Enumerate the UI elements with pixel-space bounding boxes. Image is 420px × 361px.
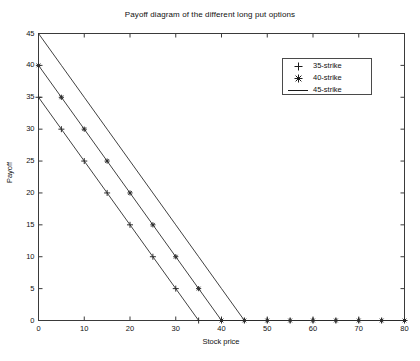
data-marker bbox=[36, 63, 41, 68]
x-tick-label: 50 bbox=[247, 324, 287, 333]
x-tick-label: 70 bbox=[339, 324, 379, 333]
legend-label: 45-strike bbox=[313, 84, 342, 96]
y-tick-label: 40 bbox=[5, 60, 35, 69]
y-tick-label: 0 bbox=[5, 316, 35, 325]
y-tick-label: 5 bbox=[5, 284, 35, 293]
data-marker bbox=[81, 158, 87, 164]
y-tick-label: 45 bbox=[5, 29, 35, 38]
data-marker bbox=[150, 222, 155, 227]
legend-label: 35-strike bbox=[313, 60, 342, 72]
data-marker bbox=[219, 318, 224, 323]
x-tick-label: 10 bbox=[64, 324, 104, 333]
x-tick-label: 40 bbox=[202, 324, 242, 333]
y-tick-label: 35 bbox=[5, 92, 35, 101]
data-marker bbox=[36, 94, 42, 100]
y-tick-label: 20 bbox=[5, 188, 35, 197]
series-line-40 bbox=[39, 65, 405, 320]
legend-label: 40-strike bbox=[313, 72, 342, 84]
y-tick-label: 30 bbox=[5, 124, 35, 133]
asterisk-marker-icon bbox=[283, 73, 313, 84]
series-line-35 bbox=[39, 97, 405, 320]
y-tick-label: 25 bbox=[5, 156, 35, 165]
legend-item-40-strike: 40-strike bbox=[283, 72, 373, 84]
y-tick-label: 10 bbox=[5, 252, 35, 261]
data-marker bbox=[173, 254, 178, 259]
data-marker bbox=[127, 190, 132, 195]
x-tick-label: 20 bbox=[110, 324, 150, 333]
data-marker bbox=[58, 126, 64, 132]
legend-item-35-strike: 35-strike bbox=[283, 60, 373, 72]
data-marker bbox=[150, 254, 156, 260]
plot-area bbox=[0, 0, 420, 361]
data-marker bbox=[82, 127, 87, 132]
data-marker bbox=[127, 222, 133, 228]
x-tick-label: 80 bbox=[385, 324, 420, 333]
legend: 35-strike 40-strike 45-strike bbox=[282, 58, 372, 95]
data-marker bbox=[196, 286, 201, 291]
y-tick-label: 15 bbox=[5, 220, 35, 229]
plus-marker-icon bbox=[283, 61, 313, 72]
x-tick-label: 30 bbox=[156, 324, 196, 333]
data-marker bbox=[59, 95, 64, 100]
data-marker bbox=[173, 286, 179, 292]
legend-item-45-strike: 45-strike bbox=[283, 84, 373, 96]
data-marker bbox=[105, 158, 110, 163]
line-marker-icon bbox=[283, 85, 313, 96]
x-tick-label: 0 bbox=[19, 324, 59, 333]
data-marker bbox=[104, 190, 110, 196]
figure-canvas: Payoff diagram of the different long put… bbox=[0, 0, 420, 361]
x-tick-label: 60 bbox=[293, 324, 333, 333]
